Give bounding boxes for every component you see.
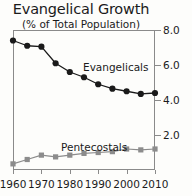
series-label-pentecostals: Pentecostals bbox=[61, 141, 127, 153]
x-tick-mark bbox=[155, 170, 156, 174]
x-tick-label: 1960 bbox=[0, 178, 26, 190]
chart-container: Evangelical Growth (% of Total Populatio… bbox=[0, 0, 192, 196]
y-tick-mark bbox=[155, 135, 161, 136]
x-tick-label: 1970 bbox=[28, 178, 55, 190]
x-tick-mark bbox=[127, 170, 128, 174]
y-tick-mark bbox=[155, 30, 161, 31]
data-point bbox=[24, 43, 30, 49]
data-point bbox=[10, 37, 16, 43]
x-tick-mark bbox=[98, 170, 99, 174]
data-point bbox=[109, 86, 115, 92]
chart-title: Evangelical Growth bbox=[0, 1, 162, 17]
x-tick-mark bbox=[70, 170, 71, 174]
data-point bbox=[152, 90, 158, 96]
x-tick-mark bbox=[13, 170, 14, 174]
data-point bbox=[138, 147, 143, 152]
data-point bbox=[67, 153, 72, 158]
y-tick-mark bbox=[155, 100, 161, 101]
data-point bbox=[53, 154, 58, 159]
series-label-evangelicals: Evangelicals bbox=[83, 61, 149, 73]
data-point bbox=[124, 88, 130, 94]
x-tick-label: 1990 bbox=[85, 178, 112, 190]
y-tick-label: 4.0 bbox=[163, 94, 180, 106]
x-tick-mark bbox=[41, 170, 42, 174]
y-tick-label: 2.0 bbox=[163, 129, 180, 141]
x-tick-label: 2000 bbox=[113, 178, 140, 190]
y-tick-mark bbox=[155, 65, 161, 66]
data-point bbox=[38, 44, 44, 50]
data-point bbox=[67, 69, 73, 75]
data-point bbox=[25, 157, 30, 162]
data-point bbox=[81, 74, 87, 80]
x-tick-label: 1980 bbox=[56, 178, 83, 190]
chart-subtitle: (% of Total Population) bbox=[0, 18, 162, 30]
y-tick-label: 8.0 bbox=[163, 24, 180, 36]
x-tick-label: 2010 bbox=[142, 178, 169, 190]
data-point bbox=[10, 161, 15, 166]
y-tick-label: 6.0 bbox=[163, 59, 180, 71]
data-point bbox=[39, 153, 44, 158]
data-point bbox=[152, 146, 157, 151]
data-point bbox=[138, 91, 144, 97]
data-point bbox=[53, 60, 59, 66]
data-point bbox=[95, 81, 101, 87]
